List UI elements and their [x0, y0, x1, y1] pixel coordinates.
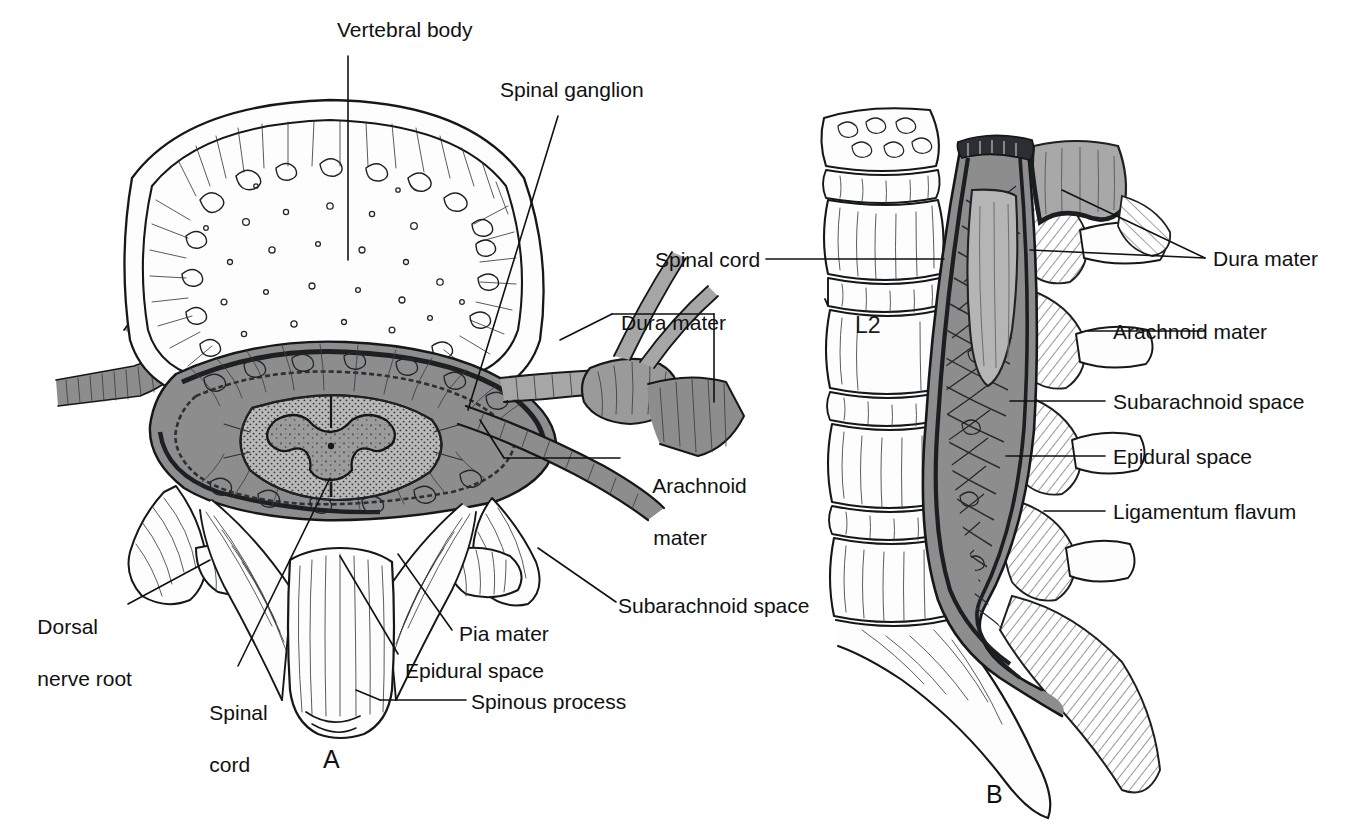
label-dura-mater-a: Dura mater: [621, 310, 726, 335]
label-ligamentum-flavum: Ligamentum flavum: [1113, 499, 1296, 524]
label-arachnoid-mater-a: Arachnoid mater: [630, 447, 747, 577]
label-dorsal-nerve-root-line1: Dorsal: [37, 615, 98, 638]
label-arachnoid-mater-a-line2: mater: [653, 526, 707, 549]
vertebra-level-marker-l2: L2: [855, 312, 881, 339]
leader-dura-mater-a-1: [560, 314, 612, 340]
label-subarachnoid-space-a: Subarachnoid space: [618, 593, 809, 618]
label-arachnoid-mater-b: Arachnoid mater: [1113, 319, 1267, 344]
label-vertebral-body: Vertebral body: [337, 17, 472, 42]
label-arachnoid-mater-a-line1: Arachnoid: [652, 474, 747, 497]
panel-a-artwork: [56, 100, 744, 738]
label-spinal-cord-a-line1: Spinal: [209, 701, 267, 724]
anatomical-figure: Vertebral body Spinal ganglion Dura mate…: [0, 0, 1349, 829]
label-pia-mater: Pia mater: [459, 621, 549, 646]
label-spinous-process: Spinous process: [471, 689, 626, 714]
label-dura-mater-b: Dura mater: [1213, 246, 1318, 271]
label-epidural-space-b: Epidural space: [1113, 444, 1252, 469]
label-epidural-space-a: Epidural space: [405, 658, 544, 683]
label-spinal-cord-a: Spinal cord: [186, 674, 268, 804]
label-spinal-cord-b: Spinal cord: [655, 247, 760, 272]
label-spinal-cord-a-line2: cord: [209, 753, 250, 776]
label-spinal-ganglion: Spinal ganglion: [500, 77, 644, 102]
leader-subarachnoid-space-a: [538, 548, 616, 602]
panel-letter-a: A: [323, 745, 340, 774]
label-subarachnoid-space-b: Subarachnoid space: [1113, 389, 1304, 414]
panel-letter-b: B: [986, 780, 1003, 809]
label-dorsal-nerve-root-line2: nerve root: [37, 667, 132, 690]
label-dorsal-nerve-root: Dorsal nerve root: [14, 588, 132, 718]
